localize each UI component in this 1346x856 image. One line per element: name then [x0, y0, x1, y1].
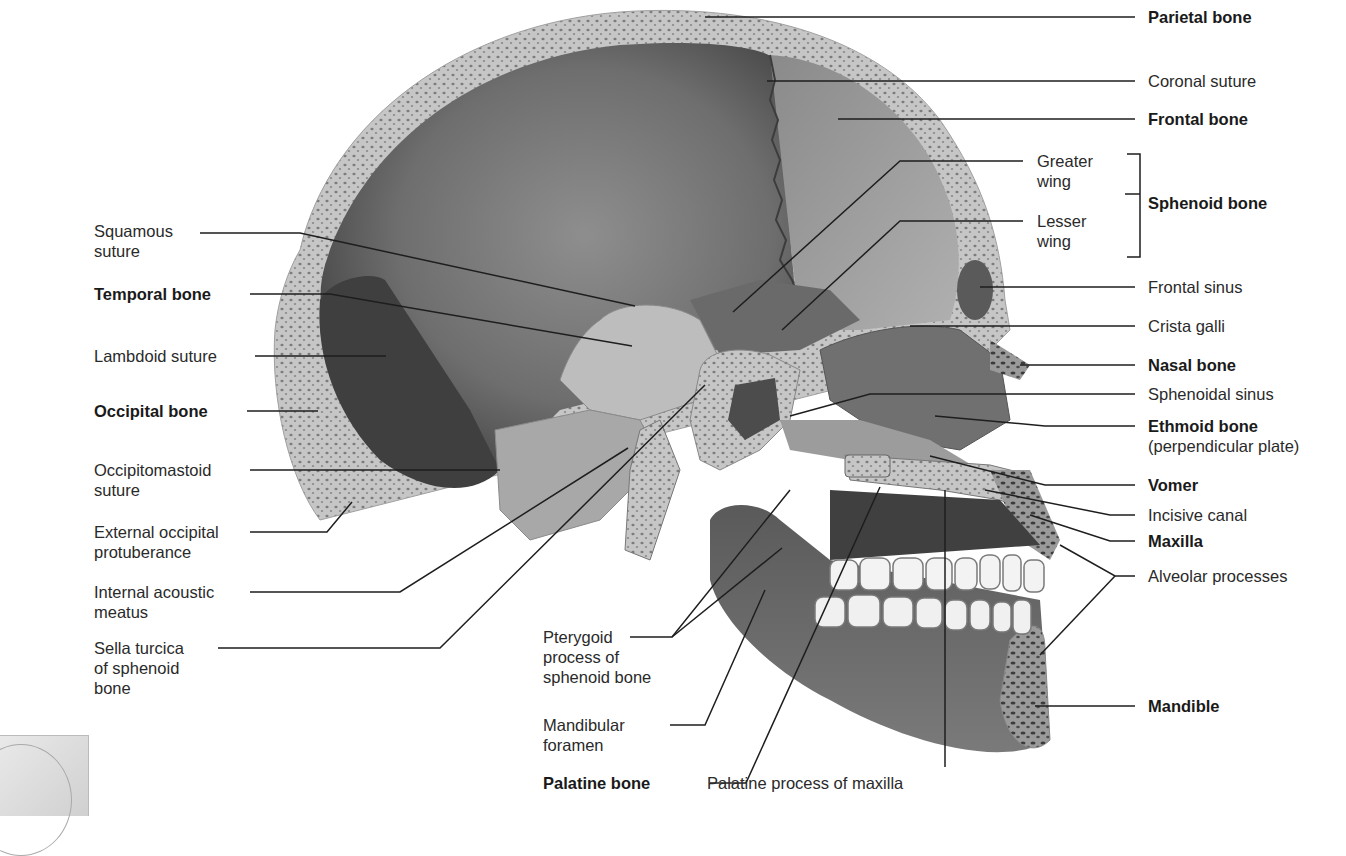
label-crista-galli: Crista galli [1148, 316, 1225, 336]
label-lesser-wing: Lesser wing [1037, 211, 1087, 251]
label-lambdoid-suture: Lambdoid suture [94, 346, 217, 366]
label-coronal-suture: Coronal suture [1148, 71, 1256, 91]
label-frontal-sinus: Frontal sinus [1148, 277, 1242, 297]
label-vomer: Vomer [1148, 475, 1198, 495]
label-palatine-bone: Palatine bone [543, 773, 650, 793]
label-temporal-bone: Temporal bone [94, 284, 211, 304]
thumbnail-skull-outline [0, 744, 72, 856]
label-external-occipital-protuberance: External occipital protuberance [94, 522, 219, 562]
palatine-bone-block [845, 455, 890, 477]
label-occipital-bone: Occipital bone [94, 401, 208, 421]
label-mandible: Mandible [1148, 696, 1220, 716]
label-incisive-canal: Incisive canal [1148, 505, 1247, 525]
label-palatine-process-of-maxilla: Palatine process of maxilla [707, 773, 903, 793]
label-parietal-bone: Parietal bone [1148, 7, 1252, 27]
label-greater-wing: Greater wing [1037, 151, 1093, 191]
label-maxilla: Maxilla [1148, 531, 1203, 551]
label-mandibular-foramen: Mandibular foramen [543, 715, 625, 755]
label-sphenoid-bone: Sphenoid bone [1148, 193, 1267, 213]
label-internal-acoustic-meatus: Internal acoustic meatus [94, 582, 214, 622]
label-ethmoid-bone: Ethmoid bone (perpendicular plate) [1148, 416, 1299, 456]
label-sella-turcica: Sella turcica of sphenoid bone [94, 638, 184, 698]
label-squamous-suture: Squamous suture [94, 221, 173, 261]
label-frontal-bone: Frontal bone [1148, 109, 1248, 129]
orientation-thumbnail [0, 735, 89, 816]
label-occipitomastoid-suture: Occipitomastoid suture [94, 460, 211, 500]
label-alveolar-processes: Alveolar processes [1148, 566, 1287, 586]
label-nasal-bone: Nasal bone [1148, 355, 1236, 375]
label-sphenoidal-sinus: Sphenoidal sinus [1148, 384, 1274, 404]
label-pterygoid-process: Pterygoid process of sphenoid bone [543, 627, 651, 687]
upper-teeth [830, 555, 1044, 592]
frontal-sinus-cavity [957, 260, 993, 320]
